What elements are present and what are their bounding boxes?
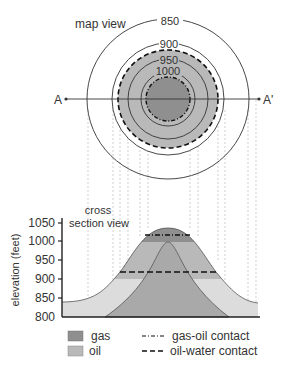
section-start-point	[64, 97, 67, 100]
cross-section: 1050 1000 950 900 850 800 elevation (fee…	[9, 204, 262, 324]
y-tick-900: 900	[35, 272, 55, 286]
y-tick-800: 800	[35, 310, 55, 324]
cross-section-title-line2: section view	[69, 217, 129, 229]
contour-label-1000: 1000	[156, 65, 180, 77]
contour-label-900: 900	[160, 38, 178, 50]
legend-oil-swatch	[68, 346, 83, 356]
y-tick-1000: 1000	[28, 234, 55, 248]
trap-diagram: map view 850 900 950 1000 A A'	[0, 0, 289, 369]
contour-label-850: 850	[161, 15, 179, 27]
map-view: map view 850 900 950 1000 A A'	[54, 14, 273, 179]
cross-section-title-line1: cross	[85, 204, 112, 216]
legend-oil-water-contact-label: oil-water contact	[170, 344, 258, 358]
y-tick-1050: 1050	[28, 216, 55, 230]
y-tick-850: 850	[35, 291, 55, 305]
legend-gas-swatch	[68, 331, 83, 341]
y-axis-label: elevation (feet)	[9, 234, 21, 307]
legend-gas-oil-contact-label: gas-oil contact	[172, 329, 250, 343]
y-tick-950: 950	[35, 253, 55, 267]
section-start-label: A	[54, 93, 62, 107]
legend: gas oil gas-oil contact oil-water contac…	[68, 329, 258, 358]
section-end-point	[257, 97, 260, 100]
map-view-title: map view	[75, 17, 126, 31]
section-end-label: A'	[263, 93, 273, 107]
legend-oil-label: oil	[89, 344, 101, 358]
legend-gas-label: gas	[91, 329, 110, 343]
